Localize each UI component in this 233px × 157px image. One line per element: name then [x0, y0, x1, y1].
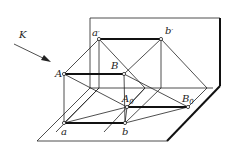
label-a: a: [61, 126, 67, 137]
point-B: [122, 72, 125, 75]
point-b-prime: [159, 37, 162, 40]
segments: [64, 39, 188, 123]
projection-direction-arrow: [14, 44, 51, 62]
label-a-prime: a′: [92, 27, 100, 38]
point-A: [62, 72, 65, 75]
labels: K a′ b′ A B A0 B0 a b: [18, 25, 194, 137]
label-B: B: [110, 60, 118, 71]
construction-lines: [56, 39, 207, 132]
label-A0: A0: [121, 93, 134, 106]
point-a: [62, 121, 65, 124]
projection-diagram: K a′ b′ A B A0 B0 a b: [0, 0, 233, 157]
label-b: b: [122, 126, 128, 137]
vertical-plane: [90, 18, 220, 88]
label-A: A: [54, 68, 62, 79]
point-b: [123, 121, 126, 124]
label-K: K: [18, 29, 27, 40]
point-A0: [125, 105, 128, 108]
label-b-prime: b′: [165, 25, 173, 36]
